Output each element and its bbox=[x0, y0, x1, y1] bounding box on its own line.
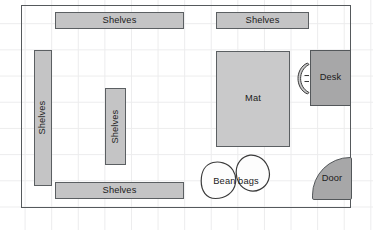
shelf-middle-label: Shelves bbox=[111, 110, 120, 144]
shelf-top-left[interactable]: Shelves bbox=[55, 12, 184, 29]
desk[interactable]: Desk bbox=[310, 50, 351, 106]
shelf-top-right[interactable]: Shelves bbox=[216, 12, 309, 29]
door-label: Door bbox=[322, 174, 343, 183]
beanbag-right[interactable] bbox=[235, 154, 271, 192]
shelf-bottom[interactable]: Shelves bbox=[55, 182, 184, 199]
desk-label: Desk bbox=[320, 73, 342, 82]
shelf-middle[interactable]: Shelves bbox=[105, 88, 126, 165]
floor-plan: Shelves Shelves Shelves Shelves Shelves … bbox=[0, 0, 373, 230]
mat-label: Mat bbox=[245, 94, 261, 103]
shelf-left-label: Shelves bbox=[38, 101, 47, 135]
shelf-left[interactable]: Shelves bbox=[34, 50, 52, 186]
mat[interactable]: Mat bbox=[216, 51, 290, 147]
shelf-top-left-label: Shelves bbox=[103, 16, 137, 25]
shelf-bottom-label: Shelves bbox=[103, 186, 137, 195]
shelf-top-right-label: Shelves bbox=[246, 16, 280, 25]
room-outline bbox=[21, 5, 351, 208]
beanbag-left[interactable] bbox=[200, 161, 237, 200]
chair-icon[interactable] bbox=[297, 62, 310, 95]
